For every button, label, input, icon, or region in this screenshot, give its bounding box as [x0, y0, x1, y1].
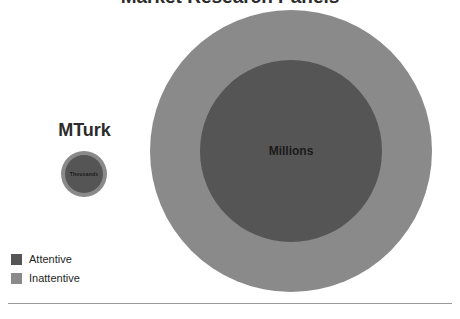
footer-divider — [8, 303, 452, 304]
mturk-attentive-label: Thousands — [61, 151, 107, 197]
legend-swatch-inattentive — [11, 273, 22, 284]
mturk-label: MTurk — [37, 120, 132, 141]
legend-label-inattentive: Inattentive — [29, 273, 80, 284]
chart-legend: Attentive Inattentive — [11, 251, 80, 289]
legend-swatch-attentive — [11, 254, 22, 265]
legend-label-attentive: Attentive — [29, 254, 72, 265]
panels-attentive-label: Millions — [200, 60, 382, 242]
slide-canvas: Market Research Panels Millions MTurk Th… — [0, 0, 460, 319]
legend-item-attentive: Attentive — [11, 251, 80, 268]
chart-title-clip: Market Research Panels — [0, 0, 460, 8]
chart-title: Market Research Panels — [0, 0, 460, 8]
legend-item-inattentive: Inattentive — [11, 270, 80, 287]
